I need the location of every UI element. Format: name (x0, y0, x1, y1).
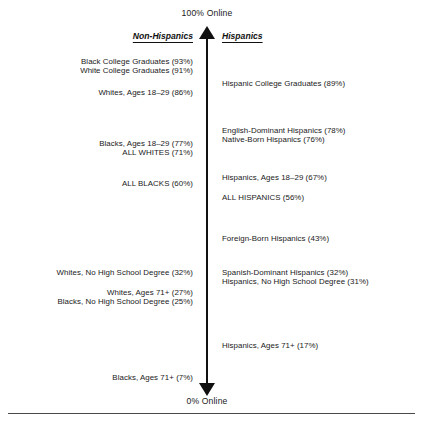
online-usage-figure: 100% Online 0% Online Non-Hispanics Hisp… (0, 0, 423, 425)
data-label: White College Graduates (91%) (0, 66, 193, 75)
data-label: Whites, Ages 18–29 (86%) (0, 88, 193, 97)
data-label: Black College Graduates (93%) (0, 57, 193, 66)
column-header-hispanics: Hispanics (222, 31, 263, 41)
axis-arrow-down-icon (199, 383, 215, 396)
data-label: English-Dominant Hispanics (78%) (222, 126, 346, 135)
column-header-non-hispanics: Non-Hispanics (0, 31, 193, 41)
data-label: Hispanic College Graduates (89%) (222, 79, 345, 88)
data-label: Hispanics, Ages 71+ (17%) (222, 341, 318, 350)
data-label: Blacks, Ages 71+ (7%) (0, 373, 193, 382)
data-label: Native-Born Hispanics (76%) (222, 135, 325, 144)
data-label: Hispanics, No High School Degree (31%) (222, 277, 369, 286)
data-label: ALL WHITES (71%) (0, 148, 193, 157)
data-label: Whites, Ages 71+ (27%) (0, 288, 193, 297)
bottom-divider (8, 413, 415, 414)
vertical-axis (206, 36, 208, 387)
data-label: Hispanics, Ages 18–29 (67%) (222, 173, 327, 182)
data-label: Whites, No High School Degree (32%) (0, 268, 193, 277)
data-label: ALL HISPANICS (56%) (222, 193, 304, 202)
axis-bottom-label: 0% Online (107, 396, 307, 406)
data-label: Spanish-Dominant Hispanics (32%) (222, 268, 348, 277)
data-label: ALL BLACKS (60%) (0, 179, 193, 188)
axis-top-label: 100% Online (107, 8, 307, 18)
data-label: Blacks, No High School Degree (25%) (0, 297, 193, 306)
data-label: Blacks, Ages 18–29 (77%) (0, 139, 193, 148)
data-label: Foreign-Born Hispanics (43%) (222, 234, 329, 243)
